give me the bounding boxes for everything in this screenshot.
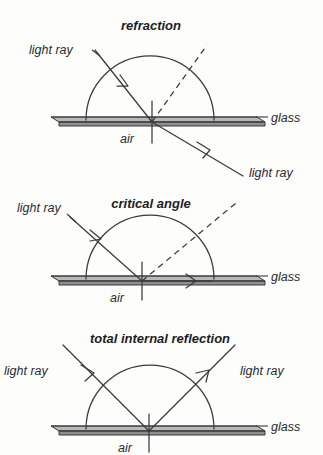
light-ray-label-refraction-incident: light ray: [29, 43, 74, 57]
light-ray-label-refraction-emergent: light ray: [249, 166, 294, 180]
glass-slab-refraction: [51, 117, 265, 126]
air-label-critical-angle: air: [110, 291, 125, 305]
optics-diagram-svg: refraction light ray ligh: [0, 0, 323, 455]
light-ray-label-critical-angle-incident: light ray: [17, 201, 62, 215]
light-ray-label-tir-reflected: light ray: [240, 364, 285, 378]
glass-label-refraction: glass: [271, 111, 300, 125]
air-label-total-internal-reflection: air: [118, 441, 133, 455]
glass-label-critical-angle: glass: [271, 270, 300, 284]
glass-slab-total-internal-reflection: [51, 426, 265, 435]
page-background: [0, 0, 323, 455]
air-label-refraction: air: [120, 132, 135, 146]
panel-title-refraction: refraction: [121, 18, 181, 33]
refraction-figure: refraction light ray ligh: [0, 0, 323, 455]
panel-title-total-internal-reflection: total internal reflection: [90, 331, 230, 346]
panel-title-critical-angle: critical angle: [111, 196, 190, 211]
glass-label-total-internal-reflection: glass: [271, 420, 300, 434]
light-ray-label-tir-incident: light ray: [4, 364, 49, 378]
